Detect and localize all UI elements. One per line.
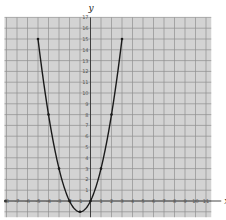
data-point xyxy=(89,200,92,203)
x-tick-label: 9 xyxy=(183,198,186,204)
data-point xyxy=(79,211,82,214)
x-tick-label: 7 xyxy=(162,198,165,204)
y-tick-label: 5 xyxy=(85,144,88,150)
data-point xyxy=(58,167,61,170)
data-point xyxy=(47,113,50,116)
y-tick-label: 4 xyxy=(85,155,88,161)
data-point xyxy=(68,200,71,203)
y-tick-label: 7 xyxy=(85,122,88,128)
parabola-chart: xy-8-7-6-5-4-3-2-11234567891011123456789… xyxy=(0,0,226,220)
x-tick-label: 1 xyxy=(99,198,102,204)
y-tick-label: 17 xyxy=(82,14,88,20)
x-tick-label: 2 xyxy=(110,198,113,204)
x-tick-label: -1 xyxy=(78,198,83,204)
data-point xyxy=(121,38,124,41)
data-point xyxy=(110,113,113,116)
y-tick-label: 1 xyxy=(85,187,88,193)
data-point xyxy=(100,167,103,170)
y-tick-label: 2 xyxy=(85,176,88,182)
x-tick-label: 11 xyxy=(203,198,209,204)
x-tick-label: 6 xyxy=(152,198,155,204)
grid-background xyxy=(5,17,212,217)
y-tick-label: 10 xyxy=(82,90,88,96)
y-tick-label: 3 xyxy=(85,166,88,172)
y-tick-label: 14 xyxy=(82,47,88,53)
x-tick-label: 3 xyxy=(120,198,123,204)
y-tick-label: 15 xyxy=(82,36,88,42)
y-tick-label: 8 xyxy=(85,112,88,118)
y-tick-label: 9 xyxy=(85,101,88,107)
x-tick-label: 10 xyxy=(192,198,198,204)
x-tick-label: -7 xyxy=(15,198,20,204)
x-tick-label: 5 xyxy=(141,198,144,204)
x-tick-label: -4 xyxy=(46,198,51,204)
y-tick-label: 16 xyxy=(82,25,88,31)
data-point xyxy=(37,38,40,41)
x-tick-label: 8 xyxy=(173,198,176,204)
y-axis-label: y xyxy=(88,3,95,13)
x-axis-label: x xyxy=(224,196,226,206)
y-tick-label: 12 xyxy=(82,68,88,74)
x-tick-label: -6 xyxy=(25,198,30,204)
x-tick-label: -3 xyxy=(57,198,62,204)
x-tick-label: 4 xyxy=(131,198,134,204)
y-tick-label: 11 xyxy=(82,79,88,85)
y-tick-label: 6 xyxy=(85,133,88,139)
x-tick-label: -5 xyxy=(36,198,41,204)
y-tick-label: 13 xyxy=(82,58,88,64)
x-tick-label: -8 xyxy=(4,198,9,204)
